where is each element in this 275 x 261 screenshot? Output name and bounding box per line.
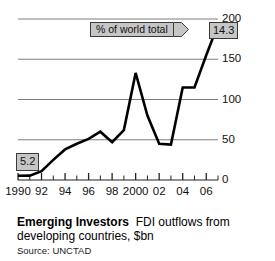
- x-axis-tick-label: 04: [175, 186, 191, 198]
- x-axis-tick-label: 94: [57, 186, 73, 198]
- chart-container: 200 150 100 50 0 1990929496982000020406 …: [0, 0, 275, 261]
- x-axis-tick-label: 98: [104, 186, 120, 198]
- gridlines: [18, 19, 218, 180]
- x-axis-tick-label: 92: [34, 186, 50, 198]
- x-axis-tick-label: 96: [81, 186, 97, 198]
- legend: % of world total: [90, 22, 189, 37]
- data-series-line: [18, 25, 218, 176]
- x-axis-tick-label: 02: [151, 186, 167, 198]
- chart-subtitle-part-1: FDI outflows from: [136, 215, 230, 229]
- start-value-callout: 5.2: [16, 153, 39, 171]
- x-axis-tick-label: 06: [198, 186, 214, 198]
- legend-arrow-icon: [173, 22, 189, 37]
- y-axis-tick-label: 150: [222, 53, 241, 65]
- chart-title: Emerging Investors: [17, 215, 129, 229]
- legend-label: % of world total: [96, 24, 168, 35]
- source-note: Source: UNCTAD: [17, 246, 91, 256]
- legend-body: % of world total: [90, 22, 173, 37]
- y-axis-tick-label: 100: [222, 94, 241, 106]
- x-axis-ticks: [18, 173, 218, 180]
- x-axis-tick-label: 2000: [122, 186, 150, 198]
- x-axis-tick-label: 1990: [4, 186, 32, 198]
- caption-line-1: Emerging Investors FDI outflows from: [17, 215, 269, 229]
- end-value-callout: 14.3: [209, 22, 238, 40]
- y-axis-tick-label: 50: [222, 134, 235, 146]
- y-axis-tick-label: 0: [222, 174, 228, 186]
- caption-block: Emerging Investors FDI outflows from dev…: [17, 215, 269, 243]
- chart-subtitle-part-2: developing countries, $bn: [17, 229, 269, 243]
